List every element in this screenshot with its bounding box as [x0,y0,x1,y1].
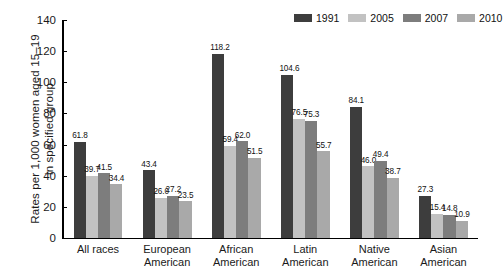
bar [86,176,98,238]
bar [98,173,110,238]
y-axis-tick-labels: 020406080100120140 [22,0,56,280]
legend-label: 2007 [425,13,448,24]
bar-value-label: 10.9 [454,211,470,219]
legend-label: 2010 [479,13,502,24]
bar [179,201,191,238]
bar-value-label: 34.4 [109,175,125,183]
bar-group: 27.315.414.810.9 [409,20,478,238]
bar-value-label: 41.5 [97,164,113,172]
bar-value-label: 118.2 [210,44,229,52]
bar [362,166,374,238]
legend-item[interactable]: 1991 [294,13,339,24]
bar [143,170,155,238]
bar [212,54,224,238]
bar-value-label: 51.5 [247,148,263,156]
bar [350,107,362,238]
x-axis-category-label: AsianAmerican [399,243,488,268]
bar [167,196,179,238]
bar-value-label: 38.7 [385,168,401,176]
legend-label: 2005 [370,13,393,24]
bar-value-label: 43.4 [141,161,157,169]
bar-value-label: 61.8 [72,132,88,140]
x-axis-category-label-line: American [399,256,488,269]
bar [281,75,293,238]
bar [155,198,167,238]
bar-group: 61.839.741.534.4 [64,20,133,238]
bar-value-label: 62.0 [235,132,251,140]
bar [248,158,260,238]
bar-value-label: 104.6 [279,65,299,73]
bar-group: 84.146.049.438.7 [340,20,409,238]
y-axis-tick-label: 20 [22,202,56,212]
y-axis-tick-label: 80 [22,108,56,118]
x-axis-category-label-line: Asian [399,243,488,256]
bar [293,119,305,238]
plot-area: 61.839.741.534.443.426.027.223.5118.259.… [64,20,479,238]
bar [456,221,468,238]
bar [74,142,86,238]
legend-item[interactable]: 2007 [403,13,448,24]
legend-label: 1991 [316,13,339,24]
y-axis-tick-label: 100 [22,77,56,87]
bar-group: 43.426.027.223.5 [133,20,202,238]
bar [419,196,431,239]
bar-value-label: 23.5 [178,192,194,200]
bar-value-label: 84.1 [348,97,364,105]
bar-group: 104.676.575.355.7 [271,20,340,238]
bar-value-label: 27.3 [418,186,434,194]
bar-chart: Rates per 1,000 women aged 15–19 in spec… [0,0,504,280]
legend-swatch-icon [348,14,366,22]
bar [110,184,122,238]
legend-swatch-icon [294,14,312,22]
y-axis-tick-label: 120 [22,46,56,56]
y-axis-tick-label: 40 [22,171,56,181]
bar-value-label: 75.3 [304,111,320,119]
legend-swatch-icon [403,14,421,22]
legend-item[interactable]: 2010 [457,13,502,24]
bar-group: 118.259.462.051.5 [202,20,271,238]
y-axis-tick-label: 140 [22,15,56,25]
legend-swatch-icon [457,14,475,22]
bar [305,121,317,238]
bar [431,214,443,238]
legend: 1991200520072010 [294,13,502,24]
bar [317,151,329,238]
y-axis-tick-label: 60 [22,140,56,150]
bar-value-label: 49.4 [373,151,389,159]
legend-item[interactable]: 2005 [348,13,393,24]
bar [224,146,236,238]
bar [387,178,399,238]
y-axis-tick-label: 0 [22,233,56,243]
bar-value-label: 55.7 [316,142,332,150]
